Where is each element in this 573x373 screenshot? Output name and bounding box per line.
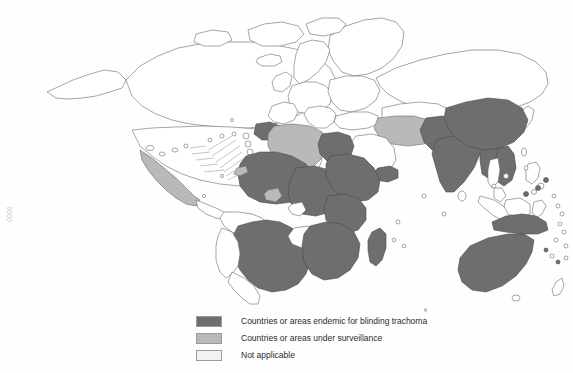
legend-item-endemic: Countries or areas endemic for blinding … [196, 314, 427, 328]
legend-item-surveillance: Countries or areas under surveillance [196, 331, 382, 345]
pacific-island-2 [492, 184, 496, 188]
legend-swatch-not-applicable [196, 350, 222, 361]
pacific-island-5 [536, 186, 541, 191]
country-sri-lanka [458, 191, 466, 201]
pacific-island-14 [544, 248, 548, 252]
island-marker-1 [243, 133, 249, 139]
island-marker-2 [245, 141, 251, 147]
pacific-island-3 [524, 166, 528, 170]
pacific-island-17 [564, 256, 568, 260]
country-taiwan [522, 148, 527, 156]
legend-item-not-applicable: Not applicable [196, 348, 295, 362]
pacific-island-15 [550, 254, 554, 258]
legend-label-endemic: Countries or areas endemic for blinding … [241, 316, 427, 327]
atlantic-island-1 [230, 118, 233, 121]
island-marker-8 [220, 134, 224, 138]
map-page: .ol { fill:#ffffff; stroke:#6a6a6a; stro… [0, 0, 573, 373]
pacific-island-10 [558, 222, 562, 226]
legend-swatch-surveillance [196, 333, 222, 344]
pacific-island-8 [556, 204, 560, 208]
world-map: .ol { fill:#ffffff; stroke:#6a6a6a; stro… [0, 0, 573, 305]
pacific-island-6 [552, 194, 556, 198]
indian-ocean-island-1 [442, 212, 446, 216]
island-puerto-rico [184, 144, 188, 148]
indian-ocean-island-5 [402, 244, 406, 248]
island-jamaica [159, 152, 165, 156]
world-map-svg: .ol { fill:#ffffff; stroke:#6a6a6a; stro… [0, 0, 573, 305]
pacific-island-11 [562, 230, 566, 234]
pacific-island-1 [504, 174, 509, 179]
atlantic-island-3 [202, 194, 205, 197]
indian-ocean-island-2 [422, 194, 426, 198]
island-cuba [146, 146, 154, 151]
atlantic-island-2 [220, 174, 223, 177]
philippines-island-3 [532, 190, 537, 195]
pacific-island-9 [560, 212, 564, 216]
legend-label-not-applicable: Not applicable [241, 350, 295, 361]
pacific-island-7 [524, 192, 529, 197]
scan-speck-1 [424, 308, 427, 312]
pacific-island-13 [564, 244, 568, 248]
map-legend: Countries or areas endemic for blinding … [0, 305, 573, 373]
island-marker-7 [232, 132, 236, 136]
margin-artifact: 0000 [6, 206, 13, 222]
country-tasmania [512, 295, 520, 301]
pacific-island-16 [556, 260, 560, 264]
legend-swatch-endemic [196, 316, 222, 327]
legend-label-surveillance: Countries or areas under surveillance [241, 333, 382, 344]
island-hispaniola [172, 148, 178, 152]
island-marker-9 [208, 138, 212, 142]
indian-ocean-island-4 [392, 238, 396, 242]
pacific-island-4 [544, 178, 549, 183]
indian-ocean-island-3 [396, 220, 400, 224]
pacific-island-12 [554, 238, 558, 242]
